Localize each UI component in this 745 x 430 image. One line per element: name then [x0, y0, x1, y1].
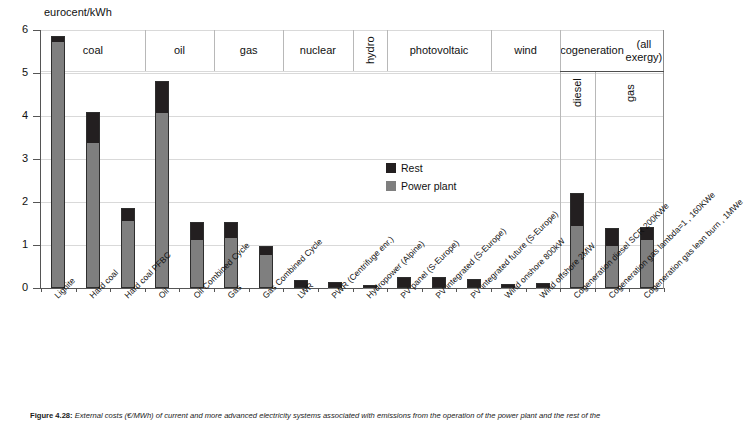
x-axis-tick [353, 288, 354, 292]
y-axis-tick [33, 159, 40, 160]
legend-item-power-plant: Power plant [386, 178, 456, 193]
bar-segment-rest [605, 228, 619, 246]
y-axis-tick-label: 4 [6, 110, 28, 121]
y-axis-tick [33, 30, 40, 31]
x-axis-tick [629, 288, 630, 292]
y-axis-tick [33, 73, 40, 74]
figure-caption: Figure 4.28: External costs (€/MWh) of c… [30, 411, 670, 420]
table-row [121, 208, 135, 288]
caption-label: Figure 4.28: [30, 411, 73, 420]
y-axis-tick-label: 1 [6, 239, 28, 250]
x-axis-tick [595, 288, 596, 292]
table-row [570, 193, 584, 288]
bars-layer [41, 30, 664, 288]
bar-segment-rest [155, 81, 169, 113]
caption-text: External costs (€/MWh) of current and mo… [73, 411, 601, 420]
x-axis-tick [249, 288, 250, 292]
x-axis-tick [387, 288, 388, 292]
y-axis-tick-label: 3 [6, 153, 28, 164]
y-axis-tick-label: 0 [6, 282, 28, 293]
legend-label-rest: Rest [401, 162, 423, 174]
y-axis-tick [33, 116, 40, 117]
legend-swatch-rest [386, 163, 396, 173]
y-axis-tick [33, 202, 40, 203]
bar-segment-rest [86, 112, 100, 143]
y-axis-tick-label: 5 [6, 67, 28, 78]
bar-segment-power-plant [86, 143, 100, 288]
bar-segment-rest [190, 222, 204, 240]
legend: Rest Power plant [386, 160, 456, 196]
x-axis-tick [456, 288, 457, 292]
bar-segment-rest [570, 193, 584, 227]
x-axis-tick [664, 288, 665, 292]
x-axis-tick [560, 288, 561, 292]
bar-segment-power-plant [190, 240, 204, 288]
x-axis-tick [318, 288, 319, 292]
bar-segment-rest [121, 208, 135, 221]
bar-segment-rest [224, 222, 238, 238]
x-axis-tick [422, 288, 423, 292]
table-row [86, 112, 100, 288]
bar-segment-power-plant [121, 221, 135, 288]
y-axis-tick-label: 2 [6, 196, 28, 207]
legend-swatch-power-plant [386, 181, 396, 191]
x-axis-tick [491, 288, 492, 292]
legend-item-rest: Rest [386, 160, 456, 175]
y-axis-tick-label: 6 [6, 24, 28, 35]
x-axis-tick [110, 288, 111, 292]
x-axis-tick [76, 288, 77, 292]
table-row [51, 36, 65, 288]
table-row [190, 222, 204, 288]
y-axis-tick [33, 245, 40, 246]
x-axis-tick [179, 288, 180, 292]
x-axis-tick [41, 288, 42, 292]
x-axis-tick [526, 288, 527, 292]
bar-segment-power-plant [51, 42, 65, 288]
legend-label-power-plant: Power plant [401, 180, 456, 192]
y-axis-tick [33, 288, 40, 289]
bar-segment-rest [51, 36, 65, 42]
bar-segment-rest [259, 246, 273, 255]
y-axis-unit-label: eurocent/kWh [44, 6, 112, 18]
x-axis-tick [214, 288, 215, 292]
x-axis-tick [145, 288, 146, 292]
x-axis-tick [283, 288, 284, 292]
